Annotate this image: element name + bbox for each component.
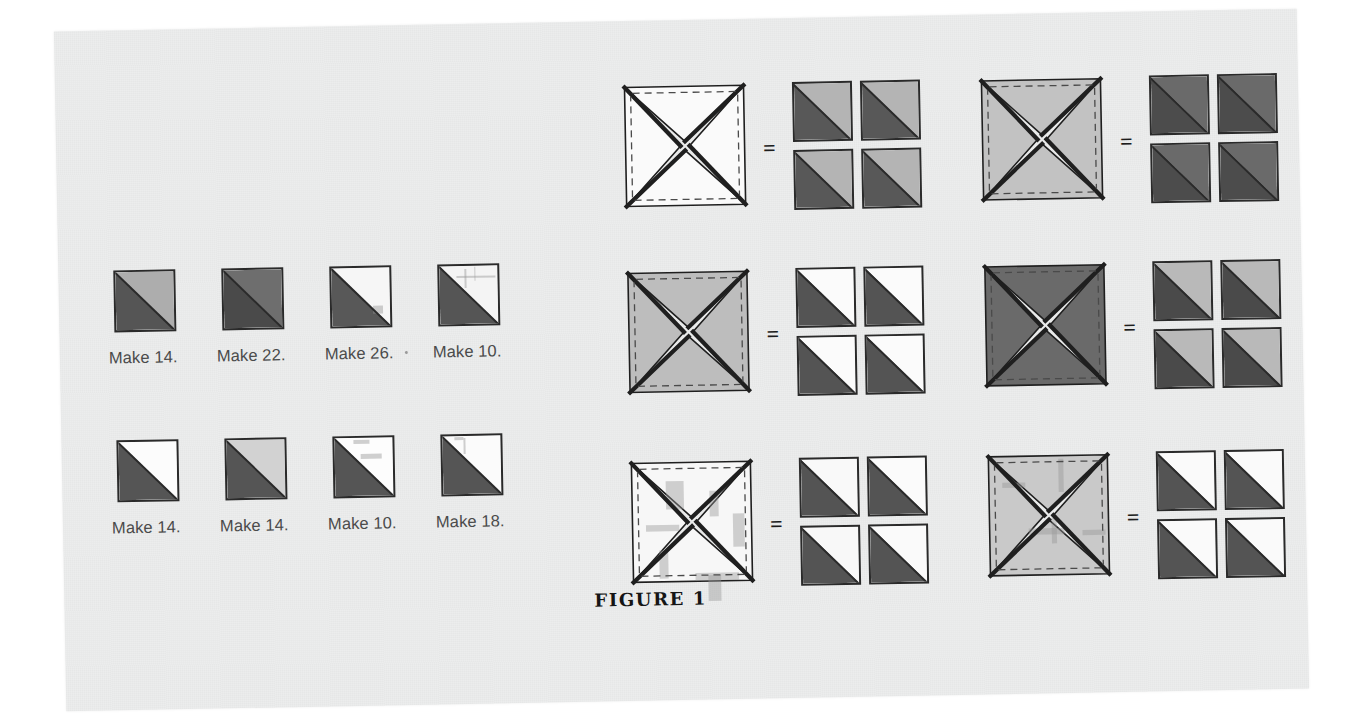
fabric-print-mark <box>455 437 464 440</box>
result-hst-square-4 <box>1218 141 1279 202</box>
fabric-print-mark <box>474 267 475 281</box>
result-hst-square-1 <box>1156 450 1217 511</box>
result-hst-square-1 <box>1149 74 1210 135</box>
pinwheel-svg-holder <box>977 74 1107 204</box>
unit-bottom-left-result-blocks <box>799 456 929 586</box>
result-hst-square-1 <box>1152 260 1213 321</box>
legend-hst-square <box>221 267 284 330</box>
unit-middle-right-result-blocks <box>1152 259 1282 389</box>
legend-unit-5 <box>116 439 179 502</box>
result-hst-square-4 <box>861 148 922 209</box>
figure-caption: FIGURE 1 <box>594 588 707 611</box>
unit-top-left-result-blocks <box>792 80 922 210</box>
equals-sign: = <box>763 135 776 161</box>
result-hst-square-1 <box>795 267 856 328</box>
result-hst-square-1 <box>799 457 860 518</box>
legend-label-make-count: Make 10. <box>328 513 397 533</box>
result-hst-square-4 <box>868 524 929 585</box>
unit-bottom-right-pinwheel <box>984 450 1114 580</box>
legend-label-make-count: Make 18. <box>436 511 505 531</box>
legend-label-make-count: Make 10. <box>433 341 502 361</box>
pinwheel-svg-holder <box>980 260 1110 390</box>
result-hst-square-4 <box>1222 327 1283 388</box>
pinwheel-assembly-diagram <box>980 260 1110 390</box>
legend-label-make-count: Make 14. <box>112 517 181 537</box>
legend-hst-square <box>440 433 503 496</box>
legend-unit-6 <box>224 437 287 500</box>
legend-hst-square <box>332 435 395 498</box>
legend-unit-4 <box>437 263 500 326</box>
fabric-print-mark <box>463 438 465 454</box>
page-content: Make 14.Make 22.Make 26.Make 10.Make 14.… <box>54 9 1309 712</box>
result-hst-square-2 <box>867 456 928 517</box>
legend-label-make-count: Make 22. <box>217 345 286 365</box>
fabric-print-mark <box>353 440 369 443</box>
unit-top-right-pinwheel <box>977 74 1107 204</box>
unit-bottom-right-result-blocks <box>1156 449 1286 579</box>
equals-sign: = <box>770 511 783 537</box>
result-hst-square-2 <box>1217 73 1278 134</box>
fabric-print-mark <box>1052 518 1058 544</box>
unit-top-left-pinwheel <box>620 81 750 211</box>
unit-middle-right-pinwheel <box>980 260 1110 390</box>
fabric-print-mark <box>666 481 684 509</box>
pinwheel-assembly-diagram <box>623 267 753 397</box>
legend-hst-square <box>329 265 392 328</box>
result-hst-square-2 <box>1220 259 1281 320</box>
legend-hst-square <box>116 439 179 502</box>
pinwheel-assembly-diagram <box>977 74 1107 204</box>
pinwheel-assembly-diagram <box>984 450 1114 580</box>
legend-unit-7 <box>332 435 395 498</box>
unit-top-right-result-blocks <box>1149 73 1279 203</box>
units-area: ====== <box>54 9 1297 32</box>
result-hst-square-4 <box>1225 517 1286 578</box>
result-hst-square-3 <box>1150 142 1211 203</box>
equals-sign: = <box>1123 315 1136 341</box>
figure-screenshot: Make 14.Make 22.Make 26.Make 10.Make 14.… <box>0 0 1359 726</box>
legend-label-make-count: Make 14. <box>109 347 178 367</box>
pinwheel-svg-holder <box>984 450 1114 580</box>
fabric-print-mark <box>1058 459 1064 492</box>
legend-hst-square <box>113 269 176 332</box>
result-hst-square-2 <box>860 80 921 141</box>
legend-label-make-count: Make 14. <box>220 515 289 535</box>
result-hst-square-3 <box>1157 518 1218 579</box>
equals-sign: = <box>766 321 779 347</box>
result-hst-square-2 <box>1224 449 1285 510</box>
fabric-print-mark <box>733 513 745 546</box>
result-hst-square-1 <box>792 81 853 142</box>
result-hst-square-3 <box>793 149 854 210</box>
result-hst-square-4 <box>865 334 926 395</box>
unit-bottom-left-pinwheel <box>627 457 757 587</box>
fabric-print-mark <box>646 525 679 532</box>
legend-unit-2 <box>221 267 284 330</box>
stray-speck <box>405 351 408 354</box>
pinwheel-svg-holder <box>623 267 753 397</box>
legend-hst-square <box>224 437 287 500</box>
legend-label-make-count: Make 26. <box>325 343 394 363</box>
equals-sign: = <box>1120 129 1133 155</box>
legend-area: Make 14.Make 22.Make 26.Make 10.Make 14.… <box>54 9 1297 32</box>
pinwheel-svg-holder <box>627 457 757 587</box>
scanned-page: Make 14.Make 22.Make 26.Make 10.Make 14.… <box>54 9 1309 712</box>
result-hst-square-3 <box>800 525 861 586</box>
result-hst-square-2 <box>863 266 924 327</box>
pinwheel-svg-holder <box>620 81 750 211</box>
pinwheel-assembly-diagram <box>620 81 750 211</box>
fabric-print-mark <box>361 454 382 459</box>
result-hst-square-3 <box>1154 328 1215 389</box>
equals-sign: = <box>1127 505 1140 531</box>
legend-unit-1 <box>113 269 176 332</box>
result-hst-square-3 <box>797 335 858 396</box>
legend-unit-3 <box>329 265 392 328</box>
unit-middle-left-result-blocks <box>795 266 925 396</box>
unit-middle-left-pinwheel <box>623 267 753 397</box>
pinwheel-assembly-diagram <box>627 457 757 587</box>
legend-unit-8 <box>440 433 503 496</box>
fabric-print-mark <box>464 269 466 288</box>
legend-hst-square <box>437 263 500 326</box>
fabric-print-mark <box>708 575 721 601</box>
